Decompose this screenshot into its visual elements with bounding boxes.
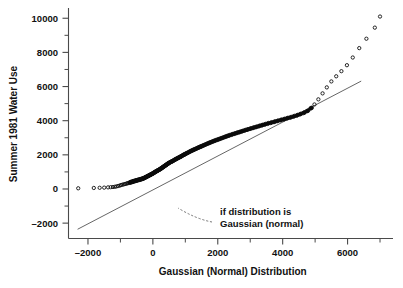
data-point: [365, 37, 368, 40]
y-axis-tick-labels: –20000200040006000800010000: [32, 13, 58, 229]
data-point: [325, 86, 328, 89]
data-point: [321, 92, 324, 95]
x-axis-tick-labels: –20000200040006000: [75, 247, 358, 258]
x-tick-label: 4000: [272, 247, 293, 258]
data-point: [92, 186, 95, 189]
data-point: [345, 64, 348, 67]
y-tick-label: 10000: [32, 13, 58, 24]
y-tick-label: 0: [53, 183, 58, 194]
y-tick-label: 4000: [37, 115, 58, 126]
data-point: [77, 187, 80, 190]
qq-plot-canvas: –20000200040006000800010000 –20000200040…: [0, 0, 403, 288]
annotation-text-line-1: if distribution is: [220, 206, 291, 217]
data-point: [340, 70, 343, 73]
x-tick-label: 0: [150, 247, 155, 258]
data-point: [373, 26, 376, 29]
data-point: [103, 186, 106, 189]
y-axis-major-ticks: [63, 18, 69, 223]
qq-plot-figure: –20000200040006000800010000 –20000200040…: [0, 0, 403, 288]
data-point: [330, 80, 333, 83]
data-point: [317, 98, 320, 101]
annotation-leader-line: [178, 208, 212, 222]
y-tick-label: 6000: [37, 81, 58, 92]
data-point-group: [77, 15, 382, 190]
data-point: [378, 15, 381, 18]
data-point: [335, 75, 338, 78]
data-point: [310, 106, 314, 110]
y-axis-title: Summer 1981 Water Use: [8, 65, 19, 182]
x-tick-label: –2000: [75, 247, 101, 258]
x-axis-minor-ticks: [120, 239, 380, 243]
data-point: [358, 46, 361, 49]
data-point: [351, 56, 354, 59]
annotation-group: if distribution is Gaussian (normal): [178, 206, 303, 229]
x-axis-title: Gaussian (Normal) Distribution: [159, 266, 307, 277]
x-tick-label: 6000: [337, 247, 358, 258]
data-point: [98, 186, 101, 189]
y-tick-label: 2000: [37, 149, 58, 160]
y-tick-label: –2000: [32, 218, 58, 229]
y-tick-label: 8000: [37, 47, 58, 58]
annotation-text-line-2: Gaussian (normal): [220, 218, 303, 229]
x-axis-major-ticks: [88, 239, 348, 245]
x-tick-label: 2000: [207, 247, 228, 258]
